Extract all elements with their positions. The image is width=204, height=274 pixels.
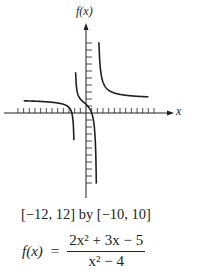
formula-numerator: 2x² + 3x − 5	[67, 232, 145, 252]
function-graph	[0, 0, 204, 200]
formula-denominator: x² − 4	[89, 252, 124, 270]
formula-lhs: f(x)	[22, 243, 43, 260]
formula-equals: =	[51, 243, 59, 260]
function-formula: f(x) = 2x² + 3x − 5 x² − 4	[22, 232, 145, 270]
formula-fraction: 2x² + 3x − 5 x² − 4	[67, 232, 145, 270]
x-axis-label: x	[176, 104, 181, 119]
y-axis-arrow-icon	[84, 23, 89, 30]
curve-branch-3	[98, 43, 148, 97]
viewing-window: [−12, 12] by [−10, 10]	[21, 206, 151, 223]
y-axis-label: f(x)	[76, 4, 93, 19]
x-axis-arrow-icon	[167, 111, 174, 116]
curve-branch-1	[24, 101, 74, 141]
